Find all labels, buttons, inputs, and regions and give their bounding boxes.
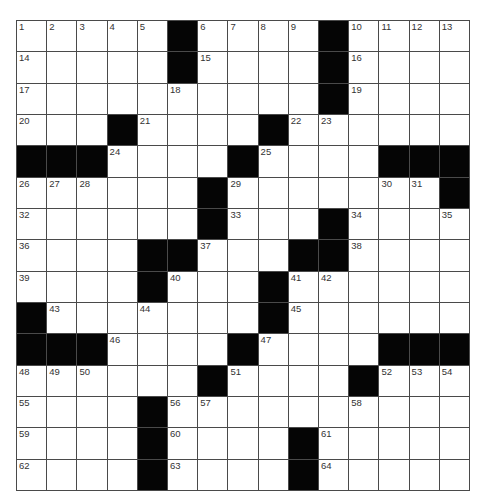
- grid-cell-r5c2[interactable]: 28: [77, 178, 107, 209]
- grid-cell-r3c4[interactable]: 21: [138, 115, 168, 146]
- grid-cell-r6c9[interactable]: [289, 209, 319, 240]
- grid-cell-r3c12[interactable]: [379, 115, 409, 146]
- grid-cell-r11c14[interactable]: 54: [440, 366, 470, 397]
- grid-cell-r5c9[interactable]: [289, 178, 319, 209]
- grid-cell-r12c9[interactable]: [289, 397, 319, 428]
- grid-cell-r13c7[interactable]: [228, 428, 258, 459]
- grid-cell-r1c3[interactable]: [108, 52, 138, 83]
- grid-cell-r9c3[interactable]: [108, 303, 138, 334]
- grid-cell-r12c1[interactable]: [47, 397, 77, 428]
- grid-cell-r6c0[interactable]: 32: [17, 209, 47, 240]
- grid-cell-r3c11[interactable]: [349, 115, 379, 146]
- grid-cell-r3c13[interactable]: [410, 115, 440, 146]
- grid-cell-r12c3[interactable]: [108, 397, 138, 428]
- grid-cell-r6c7[interactable]: 33: [228, 209, 258, 240]
- grid-cell-r11c7[interactable]: 51: [228, 366, 258, 397]
- grid-cell-r8c1[interactable]: [47, 272, 77, 303]
- grid-cell-r14c7[interactable]: [228, 460, 258, 491]
- grid-cell-r3c0[interactable]: 20: [17, 115, 47, 146]
- grid-cell-r5c0[interactable]: 26: [17, 178, 47, 209]
- grid-cell-r3c5[interactable]: [168, 115, 198, 146]
- grid-cell-r9c7[interactable]: [228, 303, 258, 334]
- grid-cell-r10c11[interactable]: [349, 334, 379, 365]
- grid-cell-r4c9[interactable]: [289, 146, 319, 177]
- grid-cell-r2c5[interactable]: 18: [168, 84, 198, 115]
- grid-cell-r13c2[interactable]: [77, 428, 107, 459]
- grid-cell-r3c10[interactable]: 23: [319, 115, 349, 146]
- grid-cell-r14c3[interactable]: [108, 460, 138, 491]
- grid-cell-r1c1[interactable]: [47, 52, 77, 83]
- grid-cell-r8c2[interactable]: [77, 272, 107, 303]
- grid-cell-r11c5[interactable]: [168, 366, 198, 397]
- grid-cell-r2c1[interactable]: [47, 84, 77, 115]
- grid-cell-r12c7[interactable]: [228, 397, 258, 428]
- grid-cell-r10c8[interactable]: 47: [259, 334, 289, 365]
- grid-cell-r9c13[interactable]: [410, 303, 440, 334]
- grid-cell-r4c8[interactable]: 25: [259, 146, 289, 177]
- grid-cell-r1c14[interactable]: [440, 52, 470, 83]
- grid-cell-r3c14[interactable]: [440, 115, 470, 146]
- grid-cell-r11c10[interactable]: [319, 366, 349, 397]
- grid-cell-r13c3[interactable]: [108, 428, 138, 459]
- grid-cell-r12c2[interactable]: [77, 397, 107, 428]
- grid-cell-r12c13[interactable]: [410, 397, 440, 428]
- grid-cell-r2c2[interactable]: [77, 84, 107, 115]
- grid-cell-r2c6[interactable]: [198, 84, 228, 115]
- grid-cell-r7c1[interactable]: [47, 240, 77, 271]
- grid-cell-r13c13[interactable]: [410, 428, 440, 459]
- grid-cell-r11c1[interactable]: 49: [47, 366, 77, 397]
- grid-cell-r10c10[interactable]: [319, 334, 349, 365]
- grid-cell-r3c9[interactable]: 22: [289, 115, 319, 146]
- grid-cell-r10c3[interactable]: 46: [108, 334, 138, 365]
- grid-cell-r13c14[interactable]: [440, 428, 470, 459]
- grid-cell-r14c10[interactable]: 64: [319, 460, 349, 491]
- grid-cell-r7c14[interactable]: [440, 240, 470, 271]
- grid-cell-r12c5[interactable]: 56: [168, 397, 198, 428]
- grid-cell-r9c10[interactable]: [319, 303, 349, 334]
- grid-cell-r4c3[interactable]: 24: [108, 146, 138, 177]
- grid-cell-r7c2[interactable]: [77, 240, 107, 271]
- grid-cell-r0c13[interactable]: 12: [410, 21, 440, 52]
- grid-cell-r1c11[interactable]: 16: [349, 52, 379, 83]
- grid-cell-r5c13[interactable]: 31: [410, 178, 440, 209]
- grid-cell-r4c10[interactable]: [319, 146, 349, 177]
- grid-cell-r0c1[interactable]: 2: [47, 21, 77, 52]
- grid-cell-r3c1[interactable]: [47, 115, 77, 146]
- grid-cell-r8c14[interactable]: [440, 272, 470, 303]
- grid-cell-r10c5[interactable]: [168, 334, 198, 365]
- grid-cell-r0c8[interactable]: 8: [259, 21, 289, 52]
- grid-cell-r9c4[interactable]: 44: [138, 303, 168, 334]
- grid-cell-r2c14[interactable]: [440, 84, 470, 115]
- grid-cell-r2c0[interactable]: 17: [17, 84, 47, 115]
- grid-cell-r13c6[interactable]: [198, 428, 228, 459]
- grid-cell-r4c5[interactable]: [168, 146, 198, 177]
- grid-cell-r0c14[interactable]: 13: [440, 21, 470, 52]
- grid-cell-r8c0[interactable]: 39: [17, 272, 47, 303]
- grid-cell-r5c8[interactable]: [259, 178, 289, 209]
- grid-cell-r0c4[interactable]: 5: [138, 21, 168, 52]
- grid-cell-r13c8[interactable]: [259, 428, 289, 459]
- grid-cell-r7c0[interactable]: 36: [17, 240, 47, 271]
- grid-cell-r8c10[interactable]: 42: [319, 272, 349, 303]
- grid-cell-r13c5[interactable]: 60: [168, 428, 198, 459]
- grid-cell-r3c6[interactable]: [198, 115, 228, 146]
- grid-cell-r5c1[interactable]: 27: [47, 178, 77, 209]
- grid-cell-r1c0[interactable]: 14: [17, 52, 47, 83]
- grid-cell-r1c7[interactable]: [228, 52, 258, 83]
- grid-cell-r2c13[interactable]: [410, 84, 440, 115]
- grid-cell-r11c4[interactable]: [138, 366, 168, 397]
- grid-cell-r7c11[interactable]: 38: [349, 240, 379, 271]
- grid-cell-r2c12[interactable]: [379, 84, 409, 115]
- grid-cell-r3c2[interactable]: [77, 115, 107, 146]
- grid-cell-r13c10[interactable]: 61: [319, 428, 349, 459]
- grid-cell-r14c1[interactable]: [47, 460, 77, 491]
- grid-cell-r1c12[interactable]: [379, 52, 409, 83]
- grid-cell-r13c1[interactable]: [47, 428, 77, 459]
- grid-cell-r11c12[interactable]: 52: [379, 366, 409, 397]
- grid-cell-r8c5[interactable]: 40: [168, 272, 198, 303]
- grid-cell-r7c12[interactable]: [379, 240, 409, 271]
- grid-cell-r11c9[interactable]: [289, 366, 319, 397]
- grid-cell-r6c12[interactable]: [379, 209, 409, 240]
- grid-cell-r8c11[interactable]: [349, 272, 379, 303]
- grid-cell-r6c8[interactable]: [259, 209, 289, 240]
